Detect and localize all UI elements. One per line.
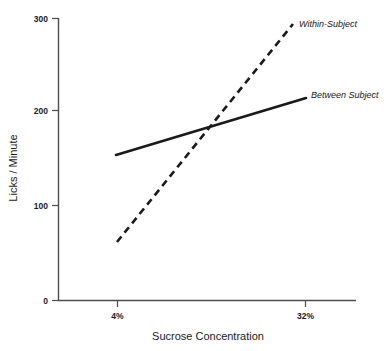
series-line-within-subject [117,24,293,242]
y-axis-title: Licks / Minute [7,134,19,201]
series-line-between-subject [116,98,306,155]
y-tick-label-100: 100 [34,201,48,211]
y-tick-label-200: 200 [34,106,48,116]
y-tick-label-300: 300 [34,14,48,24]
chart-container: 300 200 100 0 4% 32% Sucrose Concentrati… [0,0,390,351]
series-label-between-subject: Between Subject [311,90,379,100]
line-chart: 300 200 100 0 4% 32% Sucrose Concentrati… [0,0,390,351]
y-tick-label-0: 0 [43,296,48,306]
x-tick-label-4pct: 4% [111,311,124,321]
series-label-within-subject: Within-Subject [299,19,357,29]
x-axis-title: Sucrose Concentration [152,330,264,342]
x-tick-label-32pct: 32% [297,311,314,321]
